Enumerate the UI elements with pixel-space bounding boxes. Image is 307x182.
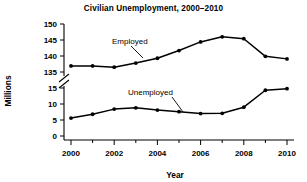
x-tick-marks (71, 140, 287, 145)
data-point-marker (134, 61, 138, 65)
x-tick-label: 2008 (235, 149, 253, 158)
y-tick-label: 140 (44, 52, 58, 61)
data-point-marker (199, 112, 203, 116)
y-tick-label: 135 (44, 68, 58, 77)
data-point-marker (264, 88, 268, 92)
y-tick-label: 0 (53, 132, 58, 141)
unemployed-series-label: Unemployed (128, 88, 173, 97)
y-tick-label: 145 (44, 36, 58, 45)
x-tick-label: 2006 (192, 149, 210, 158)
data-point-marker (220, 35, 224, 39)
data-point-marker (285, 57, 289, 61)
data-point-marker (242, 37, 246, 41)
data-point-marker (112, 107, 116, 111)
x-axis-title: Year (166, 170, 184, 180)
employed-markers (69, 35, 289, 69)
x-tick-label: 2000 (62, 149, 80, 158)
data-point-marker (69, 116, 73, 120)
data-point-marker (220, 111, 224, 115)
data-point-marker (199, 40, 203, 44)
y-tick-label: 150 (44, 20, 58, 29)
y-tick-labels: 150 145 140 135 15 10 5 0 (44, 20, 58, 141)
data-point-marker (134, 106, 138, 110)
unemployed-line (71, 89, 287, 118)
y-tick-label: 5 (53, 116, 58, 125)
unemployment-line-chart: Civilian Unemployment, 2000–2010 Million… (0, 0, 307, 182)
data-point-marker (91, 112, 95, 116)
data-point-marker (112, 65, 116, 69)
employed-series-label: Employed (112, 37, 148, 46)
series-employed (69, 35, 289, 69)
unemployed-markers (69, 87, 289, 120)
data-point-marker (285, 87, 289, 91)
data-point-marker (242, 105, 246, 109)
y-axis-title: Millions (3, 75, 13, 107)
data-point-marker (91, 64, 95, 68)
data-point-marker (264, 54, 268, 58)
x-tick-label: 2010 (278, 149, 296, 158)
data-point-marker (156, 108, 160, 112)
y-tick-label: 10 (48, 100, 57, 109)
x-tick-label: 2004 (149, 149, 167, 158)
data-point-marker (69, 64, 73, 68)
data-point-marker (177, 110, 181, 114)
y-axis: 150 145 140 135 15 10 5 0 (44, 20, 69, 141)
y-tick-label: 15 (48, 84, 57, 93)
annotation-employed: Employed (112, 37, 148, 58)
chart-container: Civilian Unemployment, 2000–2010 Million… (0, 0, 307, 182)
chart-title: Civilian Unemployment, 2000–2010 (84, 4, 224, 13)
x-tick-label: 2002 (105, 149, 123, 158)
series-unemployed (69, 87, 289, 120)
data-point-marker (177, 49, 181, 53)
x-axis: 200020022004200620082010 (62, 140, 296, 158)
x-tick-labels: 200020022004200620082010 (62, 149, 296, 158)
data-point-marker (156, 56, 160, 60)
